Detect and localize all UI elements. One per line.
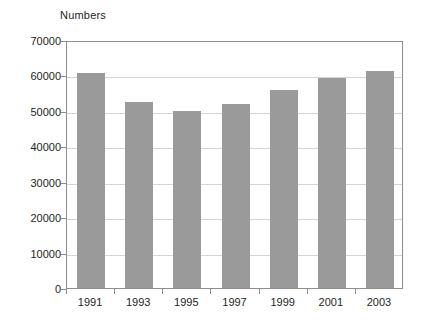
x-axis-tick-mark	[307, 289, 308, 294]
bar	[366, 71, 394, 288]
x-axis-tick-mark	[114, 289, 115, 294]
y-axis-tick-label: 70000	[30, 36, 61, 47]
x-axis-tick-label: 2003	[367, 297, 391, 308]
y-axis-tick-label: 60000	[30, 71, 61, 82]
y-axis-tick-label: 30000	[30, 177, 61, 188]
y-axis-tick-mark	[61, 183, 66, 184]
bar	[173, 111, 201, 288]
y-axis-tick-mark	[61, 254, 66, 255]
plot-area	[66, 41, 403, 289]
x-axis-tick-mark	[355, 289, 356, 294]
y-axis-title: Numbers	[60, 9, 106, 21]
y-axis-tick-mark	[61, 218, 66, 219]
bar	[125, 102, 153, 288]
x-axis-tick-label: 1993	[126, 297, 150, 308]
y-axis-tick-mark	[61, 76, 66, 77]
y-axis-tick-mark	[61, 147, 66, 148]
x-axis-tick-mark	[162, 289, 163, 294]
y-axis-tick-label: 10000	[30, 248, 61, 259]
y-axis-tick-mark	[61, 41, 66, 42]
x-axis-tick-mark	[66, 289, 67, 294]
x-axis-tick-label: 2001	[319, 297, 343, 308]
y-axis-tick-mark	[61, 112, 66, 113]
x-axis-tick-mark	[259, 289, 260, 294]
bar	[270, 90, 298, 288]
bar	[77, 73, 105, 288]
x-axis-tick-label: 1991	[78, 297, 102, 308]
gridline	[67, 77, 402, 78]
x-axis-tick-label: 1995	[174, 297, 198, 308]
x-axis-tick-mark	[210, 289, 211, 294]
bar	[318, 78, 346, 288]
x-axis-tick-label: 1997	[222, 297, 246, 308]
bar-chart: Numbers 70000600005000040000300002000010…	[0, 0, 440, 325]
bar	[222, 104, 250, 288]
y-axis-tick-labels: 700006000050000400003000020000100000	[0, 0, 61, 325]
y-axis-tick-label: 50000	[30, 106, 61, 117]
x-axis-tick-label: 1999	[270, 297, 294, 308]
y-axis-tick-label: 20000	[30, 213, 61, 224]
y-axis-tick-label: 40000	[30, 142, 61, 153]
